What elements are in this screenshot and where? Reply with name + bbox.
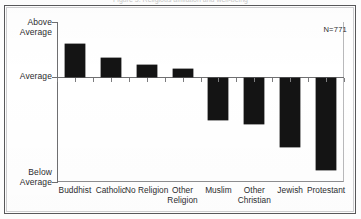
x-tick-minor — [183, 78, 184, 82]
bar-jewish — [280, 78, 300, 147]
x-tick-minor — [218, 78, 219, 82]
plot-area — [57, 22, 344, 182]
y-axis-line — [57, 22, 58, 183]
x-tick — [272, 78, 273, 82]
bar-muslim — [208, 78, 228, 120]
x-tick-minor — [290, 78, 291, 82]
bar-catholic — [101, 58, 121, 77]
bar-other-religion — [173, 69, 193, 77]
bar-no-religion — [137, 65, 157, 77]
figure-title-clipped: Figure 3. Religious affiliation and well… — [0, 0, 361, 4]
x-tick — [236, 78, 237, 82]
x-tick-minor — [147, 78, 148, 82]
x-tick — [57, 78, 58, 82]
x-tick — [308, 78, 309, 82]
x-tick-minor — [111, 78, 112, 82]
x-tick-minor — [326, 78, 327, 82]
x-tick — [344, 78, 345, 82]
y-tick-above-average — [52, 22, 58, 23]
bar-protestant — [316, 78, 336, 170]
figure-container: Figure 3. Religious affiliation and well… — [0, 0, 361, 219]
x-tick-minor — [254, 78, 255, 82]
y-tick-below-average — [52, 182, 58, 183]
y-axis-label-average: Average — [20, 72, 52, 82]
x-tick — [93, 78, 94, 82]
x-axis-label-protestant: Protestant — [302, 186, 350, 196]
sample-size-annotation: N=771 — [323, 25, 347, 34]
bar-buddhist — [65, 44, 85, 77]
y-axis-label-above-average: Above Average — [20, 18, 52, 37]
y-axis-label-below-average: Below Average — [20, 168, 52, 187]
x-tick — [165, 78, 166, 82]
x-tick — [201, 78, 202, 82]
x-tick — [129, 78, 130, 82]
x-tick-minor — [75, 78, 76, 82]
bar-other-christian — [244, 78, 264, 124]
